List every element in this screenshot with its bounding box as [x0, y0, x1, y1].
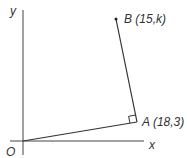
point-a-label: A (18,3) [141, 115, 184, 129]
y-axis-label: y [9, 4, 17, 18]
x-axis-label: x [148, 138, 156, 152]
point-b-dot [115, 18, 118, 21]
point-b-label: B (15,k) [124, 12, 166, 26]
origin-label: O [6, 145, 15, 158]
coordinate-diagram: y x O B (15,k) A (18,3) [0, 0, 187, 158]
segment-ab [116, 19, 137, 122]
segment-oa [23, 122, 137, 141]
